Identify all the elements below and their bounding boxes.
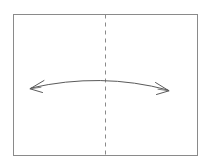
diagram-root [0, 0, 212, 165]
paper-sheet [14, 15, 198, 156]
diagram-canvas [0, 0, 212, 165]
